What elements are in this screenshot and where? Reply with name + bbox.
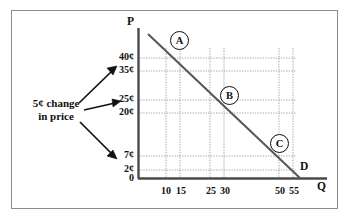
demand-curve-label: D [300,160,308,172]
region-badge-b-label: B [226,90,233,101]
xtick-label-55: 55 [282,185,306,196]
y-axis-label: P [127,15,134,27]
region-badge-a[interactable]: A [170,31,189,50]
region-badge-c-label: C [276,138,284,149]
figure-canvas: P Q D 40¢ 35¢ 25¢ 20¢ 7¢ 2¢ 0 10 15 25 3… [0,0,351,221]
region-badge-a-label: A [176,35,184,46]
price-change-annotation-line1: 5¢ change [14,97,98,110]
ytick-label-40: 40¢ [104,51,134,62]
demand-curve-line [148,34,301,179]
ytick-label-25: 25¢ [104,93,134,104]
ytick-label-7: 7¢ [104,149,134,160]
x-axis-label: Q [317,180,326,192]
price-change-annotation-line2: in price [14,110,98,123]
region-badge-c[interactable]: C [270,134,289,153]
ytick-label-0: 0 [104,172,134,183]
ytick-label-20: 20¢ [104,106,134,117]
xtick-label-30: 30 [213,185,237,196]
region-badge-b[interactable]: B [220,86,239,105]
xtick-label-15: 15 [169,185,193,196]
price-change-annotation: 5¢ change in price [14,97,98,123]
ytick-label-35: 35¢ [104,64,134,75]
